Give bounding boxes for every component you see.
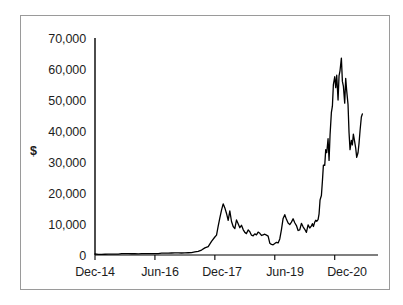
chart-figure: 70,000 60,000 50,000 40,000 30,000 20,00… — [0, 0, 403, 305]
data-series-line — [95, 58, 362, 254]
plot-area — [0, 0, 403, 305]
x-axis-tick-marks — [95, 255, 335, 260]
